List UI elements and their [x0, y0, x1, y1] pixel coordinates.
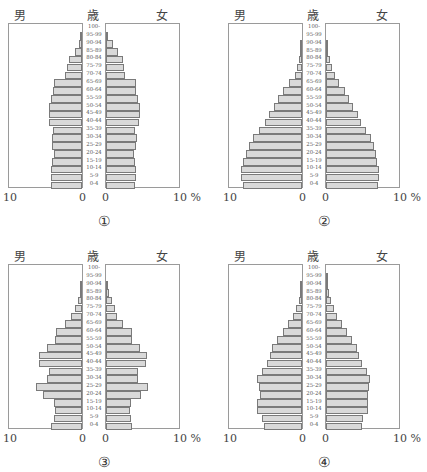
male-bar: [80, 32, 82, 40]
age-group-label: 5-9: [83, 172, 105, 180]
age-group-label: 70-74: [83, 311, 105, 319]
female-bar: [106, 344, 140, 352]
male-bar: [49, 103, 82, 111]
age-group-label: 95-99: [83, 31, 105, 39]
age-group-label: 0-4: [83, 180, 105, 188]
age-label: 歳: [87, 247, 99, 264]
male-bar: [39, 352, 83, 360]
male-bar: [51, 174, 83, 182]
age-group-label: 95-99: [303, 31, 325, 39]
age-group-label: 20-24: [303, 149, 325, 157]
age-group-label: 30-34: [83, 374, 105, 382]
male-bar: [299, 297, 302, 305]
age-group-label: 25-29: [83, 141, 105, 149]
chart-number: ①: [96, 213, 112, 229]
male-bar: [293, 313, 302, 321]
male-bar: [51, 95, 82, 103]
age-group-label: 70-74: [83, 70, 105, 78]
female-bar: [106, 40, 113, 48]
female-bar: [326, 415, 363, 423]
male-panel: [8, 23, 83, 188]
female-bar: [106, 48, 118, 56]
age-group-label: 20-24: [303, 390, 325, 398]
male-bar: [272, 344, 302, 352]
age-group-label: 40-44: [303, 117, 325, 125]
age-group-label: 15-19: [303, 157, 325, 165]
age-group-label: 70-74: [303, 70, 325, 78]
tick-left-0: 0: [299, 432, 306, 445]
female-bar: [106, 64, 124, 72]
male-bar: [243, 158, 302, 166]
female-bar: [106, 320, 123, 328]
age-group-label: 65-69: [303, 319, 325, 327]
female-bar: [326, 127, 366, 135]
tick-right-10-percent: 10 %: [173, 191, 201, 204]
age-group-label: 85-89: [303, 47, 325, 55]
female-bar: [106, 415, 131, 423]
male-bar: [54, 415, 83, 423]
female-label: 女: [376, 247, 388, 264]
age-group-label: 5-9: [303, 413, 325, 421]
female-bar: [106, 336, 132, 344]
age-group-label: 90-94: [83, 39, 105, 47]
female-bar: [326, 111, 358, 119]
male-bar: [249, 142, 302, 150]
female-bar: [326, 158, 377, 166]
male-bar: [54, 399, 83, 407]
age-group-label: 75-79: [83, 303, 105, 311]
age-group-label: 80-84: [303, 54, 325, 62]
age-group-label: 75-79: [303, 303, 325, 311]
female-panel: [325, 23, 400, 188]
male-bar: [49, 111, 82, 119]
male-bar: [52, 158, 82, 166]
female-bar: [106, 423, 132, 431]
tick-right-0: 0: [102, 432, 109, 445]
chart-number: ④: [316, 454, 332, 470]
pyramid-chart-2: 男 歳 女 100-95-9990-9485-8980-8475-7970-74…: [213, 0, 426, 236]
female-bar: [326, 375, 370, 383]
age-group-label: 100-: [83, 23, 105, 31]
age-group-label: 45-49: [303, 109, 325, 117]
female-bar: [326, 166, 379, 174]
male-label: 男: [234, 6, 246, 23]
female-bar: [326, 182, 378, 190]
age-group-label: 35-39: [303, 366, 325, 374]
male-bar: [259, 127, 302, 135]
female-bar: [106, 174, 136, 182]
male-bar: [67, 64, 82, 72]
female-bar: [106, 297, 112, 305]
male-bar: [47, 344, 82, 352]
male-bar: [257, 399, 302, 407]
age-group-label: 35-39: [303, 125, 325, 133]
tick-left-0: 0: [79, 432, 86, 445]
female-bar: [106, 56, 123, 64]
female-bar: [106, 72, 125, 80]
age-group-label: 90-94: [303, 39, 325, 47]
male-bar: [55, 407, 82, 415]
age-group-label: 80-84: [303, 295, 325, 303]
age-group-label: 55-59: [83, 94, 105, 102]
female-bar: [326, 328, 347, 336]
male-bar: [55, 336, 82, 344]
age-group-label: 5-9: [303, 172, 325, 180]
tick-left-0: 0: [299, 191, 306, 204]
age-group-label: 80-84: [83, 54, 105, 62]
female-bar: [326, 336, 352, 344]
age-group-label: 5-9: [83, 413, 105, 421]
female-bar: [326, 134, 371, 142]
age-group-label: 65-69: [303, 78, 325, 86]
male-bar: [270, 352, 302, 360]
female-bar: [326, 352, 359, 360]
male-bar: [300, 48, 302, 56]
male-bar: [39, 360, 82, 368]
tick-right-0: 0: [102, 191, 109, 204]
male-bar: [253, 134, 302, 142]
male-bar: [289, 79, 302, 87]
male-panel: [228, 264, 303, 429]
male-bar: [53, 87, 82, 95]
age-group-label: 75-79: [83, 62, 105, 70]
male-panel: [228, 23, 303, 188]
pyramid-chart-1: 男 歳 女 100-95-9990-9485-8980-8475-7970-74…: [0, 0, 213, 236]
age-group-label: 40-44: [303, 358, 325, 366]
male-bar: [36, 383, 83, 391]
